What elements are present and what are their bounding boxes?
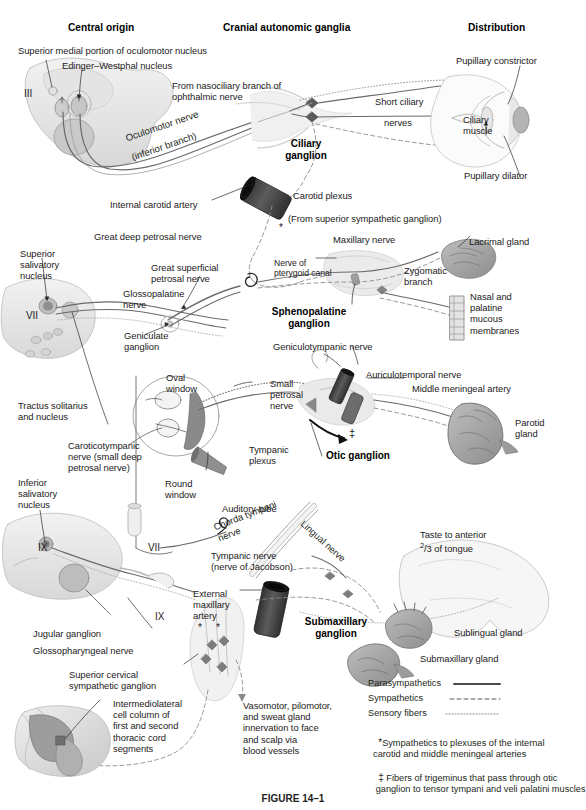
double-dagger-marker-otic: ‡ bbox=[349, 428, 355, 439]
label-nasal-and-palatine-mucous-membranes: Nasal and palatine mucous membranes bbox=[470, 291, 519, 336]
ganglion-label-ciliary: Ciliary ganglion bbox=[268, 138, 344, 162]
label-cranial-nerve-seven-lower: VII bbox=[148, 542, 160, 553]
label-superior-cervical-sympathetic-ganglion: Superior cervical sympathetic ganglion bbox=[69, 669, 156, 691]
column-header-cranial-autonomic-ganglia: Cranial autonomic ganglia bbox=[223, 22, 350, 34]
label-cranial-nerve-nine-left: IX bbox=[38, 542, 47, 553]
label-ciliary-muscle: Ciliary muscle bbox=[463, 114, 492, 136]
label-superior-medial-oculomotor-nucleus: Superior medial portion of oculomotor nu… bbox=[18, 45, 207, 56]
label-caroticotympanic-nerve: Caroticotympanic nerve (small deep petro… bbox=[68, 440, 142, 474]
legend-item-sympathetics: Sympathetics bbox=[368, 691, 458, 706]
label-oval-window: Oval window bbox=[166, 372, 197, 394]
column-header-distribution: Distribution bbox=[468, 22, 525, 34]
label-zygomatic-branch: Zygomatic branch bbox=[404, 265, 447, 287]
label-geniculate-ganglion: Geniculate ganglion bbox=[124, 330, 168, 352]
legend: Parasympathetics Sympathetics Sensory fi… bbox=[368, 676, 458, 721]
label-lacrimal-gland: Lacrimal gland bbox=[469, 236, 529, 247]
legend-label-parasympathetics: Parasympathetics bbox=[368, 678, 458, 689]
label-maxillary-nerve: Maxillary nerve bbox=[333, 234, 395, 245]
label-superior-salivatory-nucleus: Superior salivatory nucleus bbox=[20, 248, 59, 282]
label-cranial-nerve-nine-right: IX bbox=[155, 611, 164, 622]
legend-label-sympathetics: Sympathetics bbox=[368, 693, 458, 704]
label-from-superior-sympathetic-ganglion: (From superior sympathetic ganglion) bbox=[288, 213, 441, 224]
ganglion-label-submaxillary: Submaxillary ganglion bbox=[288, 616, 384, 640]
label-intermediolateral-cell-column: Intermediolateral cell column of first a… bbox=[113, 698, 182, 754]
label-cranial-nerve-three: III bbox=[24, 88, 32, 99]
label-jugular-ganglion: Jugular ganglion bbox=[33, 628, 101, 639]
column-header-central-origin: Central origin bbox=[68, 22, 134, 34]
legend-label-sensory-fibers: Sensory fibers bbox=[368, 708, 458, 719]
asterisk-marker-carotid: * bbox=[279, 222, 283, 233]
label-submaxillary-gland: Submaxillary gland bbox=[420, 653, 498, 664]
taste-line-2: /3 of tongue bbox=[424, 543, 473, 554]
label-nerve-of-pterygoid-canal: Nerve of pterygoid canal bbox=[274, 258, 332, 278]
label-geniculotympanic-nerve: Geniculotympanic nerve bbox=[273, 341, 372, 352]
label-edinger-westphal-nucleus: Edinger–Westphal nucleus bbox=[62, 60, 172, 71]
label-auriculotemporal-nerve: Auriculotemporal nerve bbox=[366, 369, 461, 380]
label-tympanic-plexus: Tympanic plexus bbox=[249, 444, 289, 466]
figure-caption: FIGURE 14–1 bbox=[0, 793, 586, 804]
label-inferior-salivatory-nucleus: Inferior salivatory nucleus bbox=[18, 477, 57, 511]
label-small-petrosal-nerve: Small petrosal nerve bbox=[270, 378, 303, 412]
label-carotid-plexus: Carotid plexus bbox=[293, 190, 352, 201]
footnote-asterisk-text: Sympathetics to plexuses of the internal… bbox=[368, 738, 545, 759]
label-middle-meningeal-artery: Middle meningeal artery bbox=[412, 383, 511, 394]
label-cranial-nerve-seven-upper: VII bbox=[26, 310, 38, 321]
label-short-ciliary-nerves: nerves bbox=[384, 117, 412, 128]
legend-item-parasympathetics: Parasympathetics bbox=[368, 676, 458, 691]
label-glossopalatine-nerve: Glossopalatine nerve bbox=[123, 288, 184, 310]
label-short-ciliary: Short ciliary bbox=[375, 96, 423, 107]
taste-line-1: Taste to anterior bbox=[420, 529, 486, 540]
label-taste-to-anterior-tongue: Taste to anterior2/3 of tongue bbox=[420, 529, 486, 555]
label-pupillary-dilator: Pupillary dilator bbox=[464, 170, 527, 181]
label-internal-carotid-artery: Internal carotid artery bbox=[110, 199, 197, 210]
label-from-nasociliary-branch: From nasociliary branch of ophthalmic ne… bbox=[172, 80, 281, 102]
label-vasomotor-pilomotor-innervation: Vasomotor, pilomotor, and sweat gland in… bbox=[243, 700, 332, 756]
label-tractus-solitarius-and-nucleus: Tractus solitarius and nucleus bbox=[18, 400, 88, 422]
label-sublingual-gland: Sublingual gland bbox=[454, 627, 523, 638]
asterisk-marker-left: * bbox=[198, 622, 202, 633]
figure-page: Central origin Cranial autonomic ganglia… bbox=[0, 0, 586, 810]
footnote-double-dagger-text: Fibers of trigeminus that pass through o… bbox=[368, 773, 586, 794]
ganglion-label-otic: Otic ganglion bbox=[310, 450, 406, 462]
label-tympanic-nerve-jacobson: Tympanic nerve (nerve of Jacobson) bbox=[211, 550, 293, 572]
label-round-window: Round window bbox=[165, 478, 196, 500]
label-great-superficial-petrosal-nerve: Great superficial petrosal nerve bbox=[151, 262, 218, 284]
label-pupillary-constrictor: Pupillary constrictor bbox=[456, 55, 537, 66]
label-glossopharyngeal-nerve: Glossopharyngeal nerve bbox=[33, 645, 134, 656]
label-external-maxillary-artery: External maxillary artery bbox=[193, 588, 230, 622]
asterisk-marker-right: * bbox=[216, 622, 220, 633]
label-great-deep-petrosal-nerve: Great deep petrosal nerve bbox=[94, 231, 202, 242]
legend-item-sensory-fibers: Sensory fibers bbox=[368, 706, 458, 721]
ganglion-label-sphenopalatine: Sphenopalatine ganglion bbox=[246, 306, 372, 330]
label-parotid-gland: Parotid gland bbox=[515, 417, 544, 439]
